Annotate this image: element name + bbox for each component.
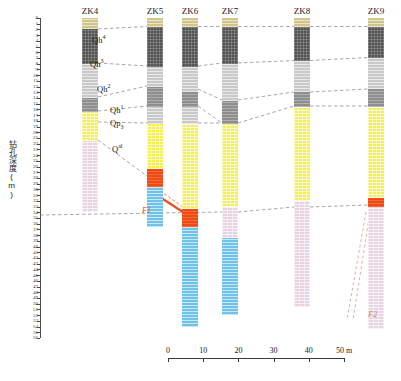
y-tick-label: 32: [16, 198, 38, 203]
layer-segment-qh1: [182, 92, 198, 106]
y-tick-label: 10: [16, 73, 38, 78]
y-tick-label: 20: [16, 130, 38, 135]
y-tick: [37, 64, 40, 65]
scale-bar-line: [168, 358, 344, 359]
scale-tick: [309, 358, 310, 362]
layer-segment-qh2: [82, 64, 98, 98]
fault-label-f2: F2: [368, 310, 377, 319]
layer-segment-qh3: [368, 27, 384, 58]
y-tick-label: 5: [16, 44, 38, 49]
y-tick-label: 3: [16, 33, 38, 38]
y-axis-line: [40, 18, 41, 338]
layer-segment-qp3: [182, 107, 198, 124]
y-tick-label: 42: [16, 255, 38, 260]
y-tick: [36, 275, 41, 276]
borehole-column-zk5[interactable]: [147, 18, 163, 227]
y-tick: [37, 109, 40, 110]
y-tick-label: 16: [16, 107, 38, 112]
y-tick: [37, 241, 40, 242]
y-tick: [37, 207, 40, 208]
y-tick-label: 21: [16, 135, 38, 140]
layer-segment-bed: [222, 238, 238, 315]
y-tick-label: 34: [16, 210, 38, 215]
layer-segment-qh1: [222, 101, 238, 124]
y-tick: [37, 87, 40, 88]
layer-segment-qal: [222, 207, 238, 238]
borehole-label-zk8: ZK8: [294, 6, 311, 16]
y-tick: [37, 127, 40, 128]
fault-label-f1: F1: [142, 206, 151, 215]
y-tick-label: 31: [16, 193, 38, 198]
correlation-lines: [0, 0, 401, 381]
layer-segment-qal: [294, 201, 310, 307]
y-tick: [36, 247, 41, 248]
layer-segment-qh2: [147, 67, 163, 87]
layer-segment-qal: [147, 124, 163, 170]
y-tick-label: 24: [16, 153, 38, 158]
y-tick: [37, 338, 40, 339]
y-tick-label: 56: [16, 335, 38, 340]
layer-segment-qh1: [294, 92, 310, 106]
layer-segment-qp3: [368, 107, 384, 198]
layer-label-qh2: Qh2: [97, 83, 110, 94]
y-tick-label: 50: [16, 301, 38, 306]
y-tick-label: 35: [16, 215, 38, 220]
y-tick: [37, 58, 40, 59]
layer-segment-f2: [368, 198, 384, 207]
y-tick: [37, 184, 40, 185]
y-tick: [37, 264, 40, 265]
y-tick-label: 7: [16, 55, 38, 60]
y-tick-label: 36: [16, 221, 38, 226]
y-tick-label: 30: [16, 187, 38, 192]
y-tick: [37, 149, 40, 150]
scale-tick-label: 10: [199, 346, 207, 355]
borehole-column-zk4[interactable]: [82, 18, 98, 212]
layer-segment-qh3: [147, 27, 163, 67]
layer-label-qal: Qal: [112, 143, 122, 154]
borehole-column-zk9[interactable]: [368, 18, 384, 329]
y-tick-label: 54: [16, 324, 38, 329]
y-tick-label: 52: [16, 313, 38, 318]
layer-segment-qh3: [222, 27, 238, 64]
y-tick-label: 1: [16, 21, 38, 26]
y-tick: [37, 81, 40, 82]
layer-segment-f1: [182, 209, 198, 226]
scale-tick-label: 30: [270, 346, 278, 355]
y-tick-label: 28: [16, 175, 38, 180]
borehole-column-zk6[interactable]: [182, 18, 198, 327]
y-tick: [37, 41, 40, 42]
y-tick: [37, 172, 40, 173]
y-tick-label: 17: [16, 113, 38, 118]
layer-label-qp3: Qp3: [110, 118, 123, 130]
layer-segment-qp3: [82, 112, 98, 141]
y-tick: [37, 144, 40, 145]
y-tick-label: 29: [16, 181, 38, 186]
y-tick-label: 46: [16, 278, 38, 283]
y-tick-label: 12: [16, 84, 38, 89]
y-tick: [36, 104, 41, 105]
y-tick: [37, 287, 40, 288]
y-tick: [37, 201, 40, 202]
y-tick: [37, 292, 40, 293]
y-tick: [36, 18, 41, 19]
scale-tick-label: 50 m: [336, 346, 352, 355]
borehole-label-zk4: ZK4: [82, 6, 99, 16]
y-tick-label: 43: [16, 261, 38, 266]
layer-segment-qh2: [294, 61, 310, 92]
layer-segment-qp3: [294, 107, 310, 201]
y-tick-label: 26: [16, 164, 38, 169]
y-tick: [37, 258, 40, 259]
y-tick-label: 49: [16, 295, 38, 300]
y-tick: [37, 298, 40, 299]
layer-segment-qal: [82, 141, 98, 212]
layer-segment-qh4: [147, 18, 163, 27]
y-tick: [36, 332, 41, 333]
y-tick-label: 14: [16, 95, 38, 100]
y-tick: [37, 309, 40, 310]
borehole-column-zk8[interactable]: [294, 18, 310, 307]
y-tick: [37, 35, 40, 36]
borehole-column-zk7[interactable]: [222, 18, 238, 315]
borehole-label-zk9: ZK9: [368, 6, 385, 16]
y-tick: [37, 52, 40, 53]
y-tick: [37, 92, 40, 93]
